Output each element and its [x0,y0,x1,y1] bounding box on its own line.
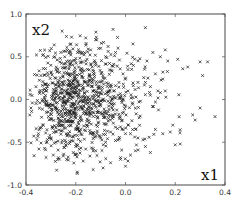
x-tick-label: -0.2 [68,188,83,197]
x-tick-label: 0.0 [120,188,132,197]
scatter-chart: -0.4-0.20.00.20.4-1.0-0.50.00.51.0 x2 x1 [0,0,237,203]
scatter-points [28,26,216,175]
x-tick-label: 0.4 [219,188,231,197]
y-tick-label: 1.0 [10,10,22,19]
y-tick-label: -0.5 [7,138,22,147]
y-axis-label: x2 [32,21,50,39]
x-axis-label: x1 [201,166,219,184]
y-tick-label: 0.0 [10,95,22,104]
y-tick-label: 0.5 [10,52,22,61]
x-tick-label: 0.2 [169,188,181,197]
y-tick-label: -1.0 [7,181,22,190]
